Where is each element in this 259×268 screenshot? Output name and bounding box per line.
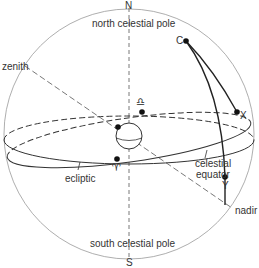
equator-label-tick — [205, 150, 207, 158]
south-label: S — [126, 257, 133, 268]
point-x-dot — [234, 109, 240, 115]
north-pole-label: north celestial pole — [92, 18, 176, 29]
point-x-label: X — [240, 110, 247, 121]
earth-position-dot — [115, 124, 121, 130]
autumnal-equinox-symbol: ♎ — [136, 96, 145, 107]
equator-label-line2: equator — [196, 169, 231, 180]
vernal-equinox-symbol: ♈ — [112, 162, 121, 173]
point-c-label: C — [176, 35, 183, 46]
ecliptic-label-tick — [78, 162, 80, 170]
equator-label-line1: celestial — [195, 158, 231, 169]
north-label: N — [125, 0, 132, 11]
point-y-label: Y — [222, 180, 229, 191]
ecliptic-label: ecliptic — [65, 173, 96, 184]
celestial-sphere-diagram: N north celestial pole zenith C X Y ♎ ♈ … — [0, 0, 259, 268]
point-c-dot — [183, 38, 189, 44]
south-pole-label: south celestial pole — [90, 238, 175, 249]
nadir-label: nadir — [235, 205, 258, 216]
diagram-canvas: N north celestial pole zenith C X Y ♎ ♈ … — [0, 0, 259, 268]
vernal-equinox-dot — [114, 156, 120, 162]
zenith-label: zenith — [2, 61, 29, 72]
autumnal-equinox-dot — [139, 109, 145, 115]
